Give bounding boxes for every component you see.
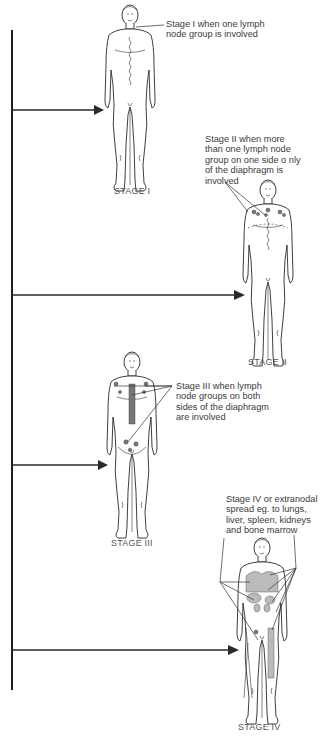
annotation-stage-1: Stage I when one lymph node group is inv…: [166, 19, 265, 40]
annotation-stage-2: Stage II when more than one lymph node g…: [205, 134, 301, 186]
figure-stage-1: [105, 5, 155, 191]
leader-stage-2: [225, 182, 265, 215]
stage-label-3: STAGE III: [111, 538, 153, 548]
annotation-stage-4: Stage IV or extranodal spread eg. to lun…: [226, 494, 317, 536]
staging-diagram: Stage I when one lymph node group is inv…: [0, 0, 321, 737]
arrow-stage-3: [12, 460, 108, 470]
diagram-canvas: [0, 0, 321, 737]
arrow-stage-2: [12, 290, 245, 300]
arrow-stage-4: [12, 645, 239, 655]
annotation-stage-3: Stage III when lymph node groups on both…: [176, 381, 269, 423]
figure-stage-3: [107, 352, 157, 538]
stage-label-4: STAGE IV: [238, 722, 280, 732]
figure-stage-4: [237, 538, 287, 724]
stage-label-1: STAGE I: [114, 186, 150, 196]
leader-stage-1: [136, 25, 164, 27]
arrow-stage-1: [12, 105, 104, 115]
figure-stage-2: [243, 180, 293, 366]
stage-label-2: STAGE II: [248, 357, 287, 367]
